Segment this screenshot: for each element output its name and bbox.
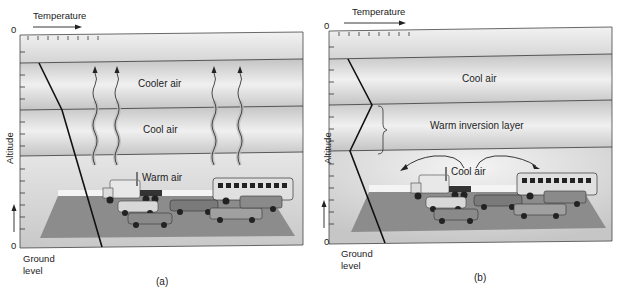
layer-label-warm-inversion: Warm inversion layer — [430, 120, 524, 131]
layer-label-cool-air: Cool air — [143, 124, 177, 135]
y-origin-b: 0 — [324, 236, 329, 247]
layer-label-upper-cool-air: Cool air — [462, 73, 496, 84]
x-axis-label-a: Temperature — [33, 10, 86, 21]
caption-a: (a) — [156, 276, 168, 287]
x-origin-b: 0 — [324, 20, 329, 31]
panel-a: Temperature 0 0 Altitude Cooler air Cool… — [0, 0, 314, 295]
layer-label-warm-air: Warm air — [142, 172, 182, 183]
x-origin-a: 0 — [11, 24, 16, 35]
ground-label-b-line2: level — [341, 260, 361, 271]
ground-label-a-line2: level — [23, 265, 43, 276]
ground-label-b-line1: Ground — [341, 248, 373, 259]
y-axis-label-b: Altitude — [322, 132, 333, 164]
panel-b: Temperature 0 0 Altitude Cool air Warm i… — [314, 0, 628, 295]
panel-a-diagram — [0, 0, 314, 295]
caption-b: (b) — [474, 272, 486, 283]
layer-label-lower-cool-air: Cool air — [451, 166, 485, 177]
layer-label-cooler-air: Cooler air — [138, 78, 181, 89]
x-axis-label-b: Temperature — [352, 6, 405, 17]
ground-label-a-line1: Ground — [23, 253, 55, 264]
y-axis-label-a: Altitude — [4, 132, 15, 164]
y-origin-a: 0 — [11, 240, 16, 251]
